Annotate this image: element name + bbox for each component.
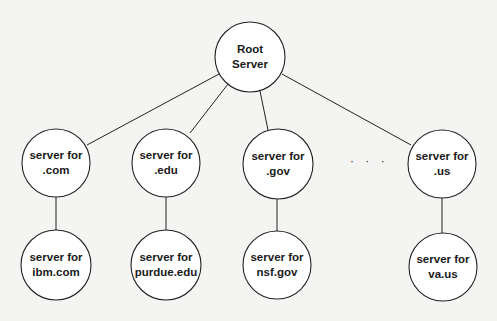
- nsf-server-node: server for nsf.gov: [243, 231, 311, 299]
- ellipsis-more-domains: · · ·: [350, 154, 389, 168]
- root-server-node: Root Server: [215, 22, 285, 92]
- us-server-node: server for .us: [408, 130, 476, 198]
- gov-server-node: server for .gov: [243, 129, 313, 199]
- purdue-server-node: server for purdue.edu: [131, 230, 201, 300]
- node-label-line2: nsf.gov: [257, 265, 298, 280]
- node-label-line2: purdue.edu: [135, 265, 198, 280]
- edge-root-gov: [260, 91, 268, 130]
- node-label-line2: ibm.com: [32, 265, 79, 280]
- com-server-node: server for .com: [22, 129, 90, 197]
- node-label-line2: .gov: [266, 164, 290, 179]
- node-label-line1: Root: [237, 42, 263, 57]
- node-label-line1: server for: [416, 252, 469, 267]
- ibm-server-node: server for ibm.com: [21, 230, 91, 300]
- node-label-line1: server for: [29, 148, 82, 163]
- dns-hierarchy-diagram: Root Server server for .com server for .…: [0, 0, 497, 321]
- node-label-line2: .us: [434, 164, 451, 179]
- node-label-line2: va.us: [428, 267, 457, 282]
- node-label-line2: .com: [43, 163, 70, 178]
- node-label-line1: server for: [139, 148, 192, 163]
- node-label-line2: .edu: [154, 163, 178, 178]
- node-label-line1: server for: [415, 149, 468, 164]
- node-label-line2: Server: [232, 57, 268, 72]
- edu-server-node: server for .edu: [132, 129, 200, 197]
- node-label-line1: server for: [250, 250, 303, 265]
- node-label-line1: server for: [29, 250, 82, 265]
- node-label-line1: server for: [251, 149, 304, 164]
- va-server-node: server for va.us: [409, 233, 477, 301]
- node-label-line1: server for: [139, 250, 192, 265]
